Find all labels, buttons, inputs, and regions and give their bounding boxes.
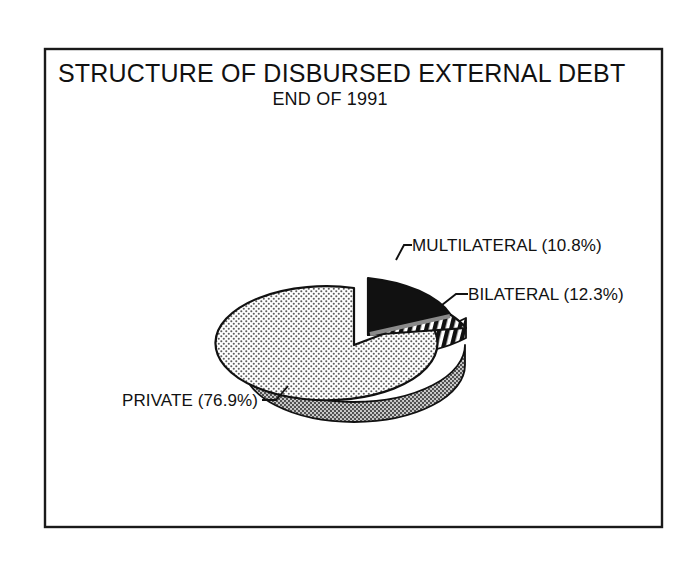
page-title: STRUCTURE OF DISBURSED EXTERNAL DEBT — [58, 59, 625, 87]
callout-label-multilateral: MULTILATERAL (10.8%) — [412, 236, 602, 255]
callout-label-private: PRIVATE (76.9%) — [122, 391, 258, 410]
chart-figure: STRUCTURE OF DISBURSED EXTERNAL DEBT END… — [0, 0, 692, 564]
chart-subtitle: END OF 1991 — [272, 89, 387, 109]
callout-label-bilateral: BILATERAL (12.3%) — [468, 285, 624, 304]
